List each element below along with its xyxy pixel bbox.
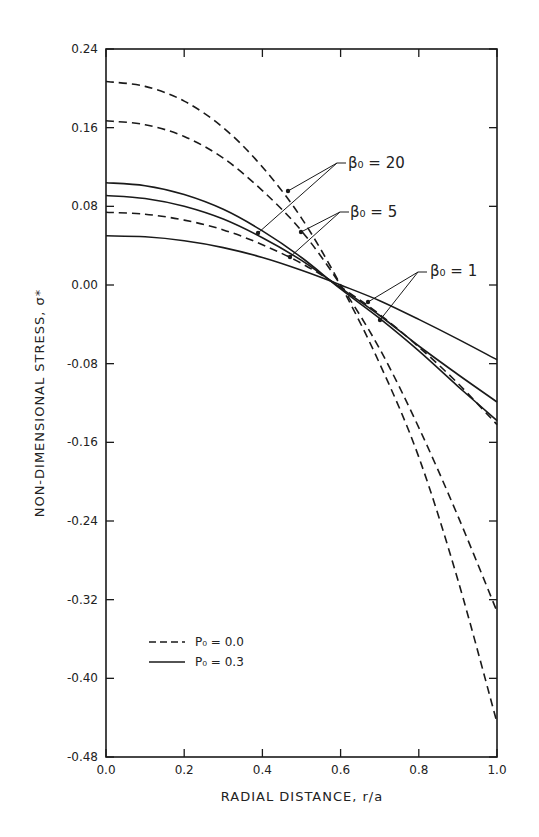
legend-label-dashed: P₀ = 0.0 — [195, 635, 244, 649]
legend-label-solid: P₀ = 0.3 — [195, 655, 244, 669]
y-tick-label: -0.40 — [67, 671, 98, 685]
x-tick-label: 0.6 — [331, 763, 350, 777]
beta-label-2: β₀ = 1 — [430, 262, 477, 280]
x-tick-label: 0.2 — [175, 763, 194, 777]
curve-dashed-0 — [106, 82, 497, 723]
y-tick-label: -0.32 — [67, 593, 98, 607]
plot-frame — [106, 49, 497, 757]
y-tick-label: 0.24 — [71, 42, 98, 56]
y-axis-label: NON-DIMENSIONAL STRESS, σ* — [32, 289, 47, 518]
x-tick-label: 0.0 — [96, 763, 115, 777]
x-tick-label: 0.8 — [409, 763, 428, 777]
y-tick-label: -0.08 — [67, 357, 98, 371]
leader-line — [368, 272, 418, 302]
y-tick-label: -0.16 — [67, 435, 98, 449]
stress-chart: 0.240.160.080.00-0.08-0.16-0.24-0.32-0.4… — [0, 0, 539, 837]
y-tick-label: -0.48 — [67, 750, 98, 764]
arrow-head-icon — [256, 231, 260, 235]
arrow-head-icon — [286, 189, 290, 193]
y-tick-label: 0.00 — [71, 278, 98, 292]
curve-dashed-2 — [106, 212, 497, 424]
y-tick-label: 0.16 — [71, 121, 98, 135]
x-axis-label: RADIAL DISTANCE, r/a — [221, 789, 383, 804]
curves — [106, 82, 497, 723]
leader-line — [290, 212, 340, 257]
plot-border — [106, 49, 497, 757]
annotations: β₀ = 20β₀ = 5β₀ = 1 — [256, 154, 477, 322]
x-tick-label: 0.4 — [253, 763, 272, 777]
x-axis-ticks: 0.00.20.40.60.81.0 — [96, 49, 506, 777]
curve-solid-4 — [106, 196, 497, 403]
curve-solid-5 — [106, 236, 497, 360]
y-tick-label: 0.08 — [71, 199, 98, 213]
arrow-head-icon — [378, 318, 382, 322]
y-axis-ticks: 0.240.160.080.00-0.08-0.16-0.24-0.32-0.4… — [67, 42, 497, 764]
leader-line — [380, 272, 418, 320]
leader-line — [288, 163, 337, 191]
arrow-head-icon — [288, 255, 292, 259]
beta-label-0: β₀ = 20 — [348, 154, 405, 172]
y-tick-label: -0.24 — [67, 514, 98, 528]
arrow-head-icon — [366, 300, 370, 304]
x-tick-label: 1.0 — [487, 763, 506, 777]
arrow-head-icon — [299, 230, 303, 234]
beta-label-1: β₀ = 5 — [350, 203, 397, 221]
legend: P₀ = 0.0P₀ = 0.3 — [149, 635, 244, 669]
